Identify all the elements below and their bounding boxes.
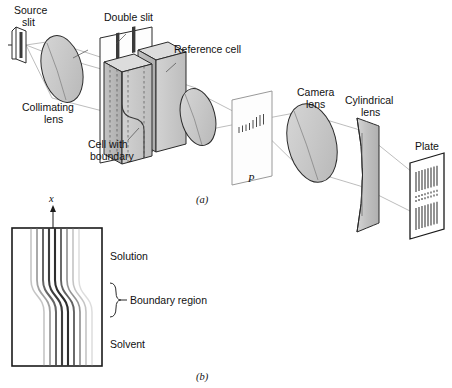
label-camera-lens-line2: lens [306, 98, 325, 110]
label-cell-boundary-line1: Cell with [88, 138, 128, 150]
label-plane-p: P [247, 173, 255, 184]
label-cylindrical-lens-line1: Cylindrical [345, 94, 393, 106]
caption-a: (a) [196, 194, 209, 206]
camera-lens [279, 98, 345, 187]
label-collimating-lens-line2: lens [44, 113, 63, 125]
photographic-plate [410, 153, 444, 239]
caption-b: (b) [196, 371, 209, 383]
figure-root: Source slit Collimating lens Double slit… [0, 0, 452, 388]
panel-a: Source slit Collimating lens Double slit… [8, 4, 444, 239]
plane-p [232, 91, 272, 185]
boundary-region-brace [110, 283, 127, 317]
source-slit [8, 27, 26, 63]
label-source-slit-line1: Source [14, 4, 47, 16]
label-cylindrical-lens-line2: lens [361, 106, 380, 118]
label-camera-lens-line1: Camera [297, 86, 335, 98]
label-double-slit: Double slit [104, 11, 153, 23]
label-reference-cell: Reference cell [174, 43, 241, 55]
label-boundary-region: Boundary region [130, 294, 207, 306]
label-solution: Solution [110, 250, 148, 262]
ray-bundle [26, 40, 412, 212]
label-x-axis: x [48, 193, 54, 204]
label-cell-boundary-line2: boundary [90, 150, 135, 162]
label-solvent: Solvent [110, 338, 145, 350]
label-plate: Plate [415, 140, 439, 152]
panel-b: x Solution Bo [12, 193, 209, 383]
optical-diagram-svg: Source slit Collimating lens Double slit… [0, 0, 452, 388]
x-axis-arrow [50, 205, 56, 228]
label-source-slit-line2: slit [22, 16, 35, 28]
cylindrical-lens [357, 118, 379, 232]
label-collimating-lens-line1: Collimating [22, 101, 74, 113]
